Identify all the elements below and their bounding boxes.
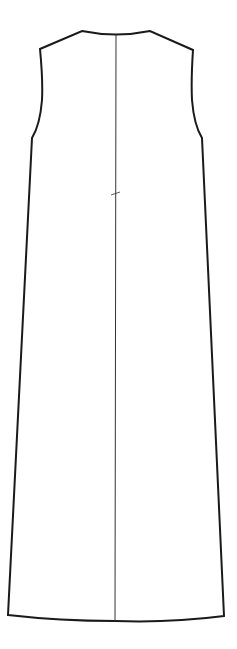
dress-flat-sketch [0,0,237,649]
center-front-seam [115,35,116,621]
dress-outline-drawing [0,0,237,649]
